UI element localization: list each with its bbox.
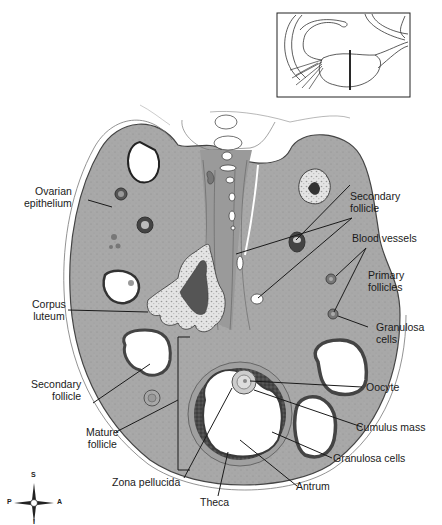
compass-posterior-label: P	[7, 498, 12, 505]
label-mature-follicle: Mature follicle	[86, 426, 119, 450]
label-ovarian-epithelium: Ovarian epithelium	[24, 185, 72, 209]
compass-anterior-label: A	[57, 498, 62, 505]
inset-ovary-sketch	[277, 13, 410, 97]
ovary-diagram	[0, 0, 442, 525]
label-secondary-follicle-right: Secondary follicle	[350, 190, 400, 214]
label-cumulus-mass: Cumulus mass	[356, 421, 425, 433]
label-granulosa-cells-right: Granulosa cells	[376, 321, 424, 345]
label-antrum: Antrum	[296, 480, 330, 492]
label-secondary-follicle-left: Secondary follicle	[30, 378, 81, 402]
label-primary-follicles: Primary follicles	[368, 269, 404, 293]
compass-superior-label: S	[31, 471, 36, 478]
label-granulosa-cells-bottom: Granulosa cells	[333, 452, 405, 464]
label-zona-pellucida: Zona pellucida	[112, 476, 180, 488]
label-theca: Theca	[200, 496, 229, 508]
label-blood-vessels: Blood vessels	[352, 232, 417, 244]
mature-follicle-shape	[188, 362, 292, 466]
compass-inferior-label: I	[33, 518, 35, 525]
label-corpus-luteum: Corpus luteum	[32, 298, 66, 322]
compass-rose	[14, 483, 54, 523]
label-oocyte: Oocyte	[366, 381, 399, 393]
